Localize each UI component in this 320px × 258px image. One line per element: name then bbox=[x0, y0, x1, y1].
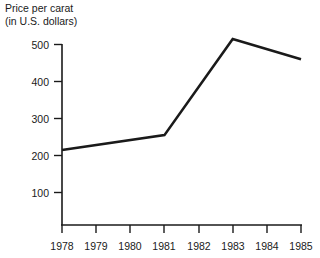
x-axis-tick-labels: 1978 1979 1980 1981 1982 1983 1984 1985 bbox=[50, 240, 313, 252]
x-tick-label-1980: 1980 bbox=[118, 240, 142, 252]
x-tick-label-1984: 1984 bbox=[255, 240, 279, 252]
x-tick-label-1983: 1983 bbox=[221, 240, 245, 252]
y-tick-label-100: 100 bbox=[31, 187, 49, 199]
y-axis-ticks bbox=[54, 45, 62, 193]
y-axis-tick-labels: 500 400 300 200 100 bbox=[31, 39, 49, 199]
y-tick-label-400: 400 bbox=[31, 76, 49, 88]
x-tick-label-1985: 1985 bbox=[289, 240, 313, 252]
x-tick-label-1978: 1978 bbox=[50, 240, 74, 252]
x-tick-label-1982: 1982 bbox=[187, 240, 211, 252]
chart-figure: Price per carat (in U.S. dollars) 500 40… bbox=[0, 0, 320, 258]
x-tick-label-1979: 1979 bbox=[84, 240, 108, 252]
y-tick-label-200: 200 bbox=[31, 150, 49, 162]
data-series-line bbox=[62, 39, 301, 150]
x-axis-ticks bbox=[62, 225, 301, 233]
line-chart-plot: 500 400 300 200 100 1978 1979 1980 1981 … bbox=[0, 0, 320, 258]
y-tick-label-300: 300 bbox=[31, 113, 49, 125]
y-tick-label-500: 500 bbox=[31, 39, 49, 51]
x-tick-label-1981: 1981 bbox=[152, 240, 176, 252]
